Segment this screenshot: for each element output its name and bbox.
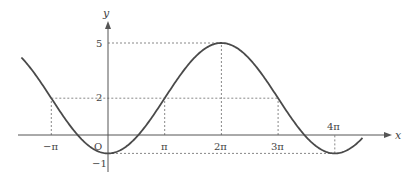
x-axis-arrow-icon: [384, 132, 392, 138]
function-graph: x y O 5 2 −1 −π π 2π 3π 4π: [0, 0, 413, 182]
x-tick-pi: π: [161, 141, 168, 152]
x-tick-4pi: 4π: [327, 121, 340, 132]
origin-label: O: [94, 141, 102, 152]
y-tick-2: 2: [96, 92, 102, 103]
y-tick-neg1: −1: [92, 158, 107, 169]
x-axis: [18, 132, 392, 138]
y-axis: [105, 21, 111, 172]
y-axis-arrow-icon: [105, 21, 111, 29]
x-tick-3pi: 3π: [271, 141, 284, 152]
x-tick-2pi: 2π: [214, 141, 227, 152]
y-axis-label: y: [102, 7, 110, 20]
x-tick-neg-pi: −π: [43, 141, 58, 152]
y-tick-5: 5: [96, 38, 102, 49]
x-axis-label: x: [395, 129, 402, 142]
